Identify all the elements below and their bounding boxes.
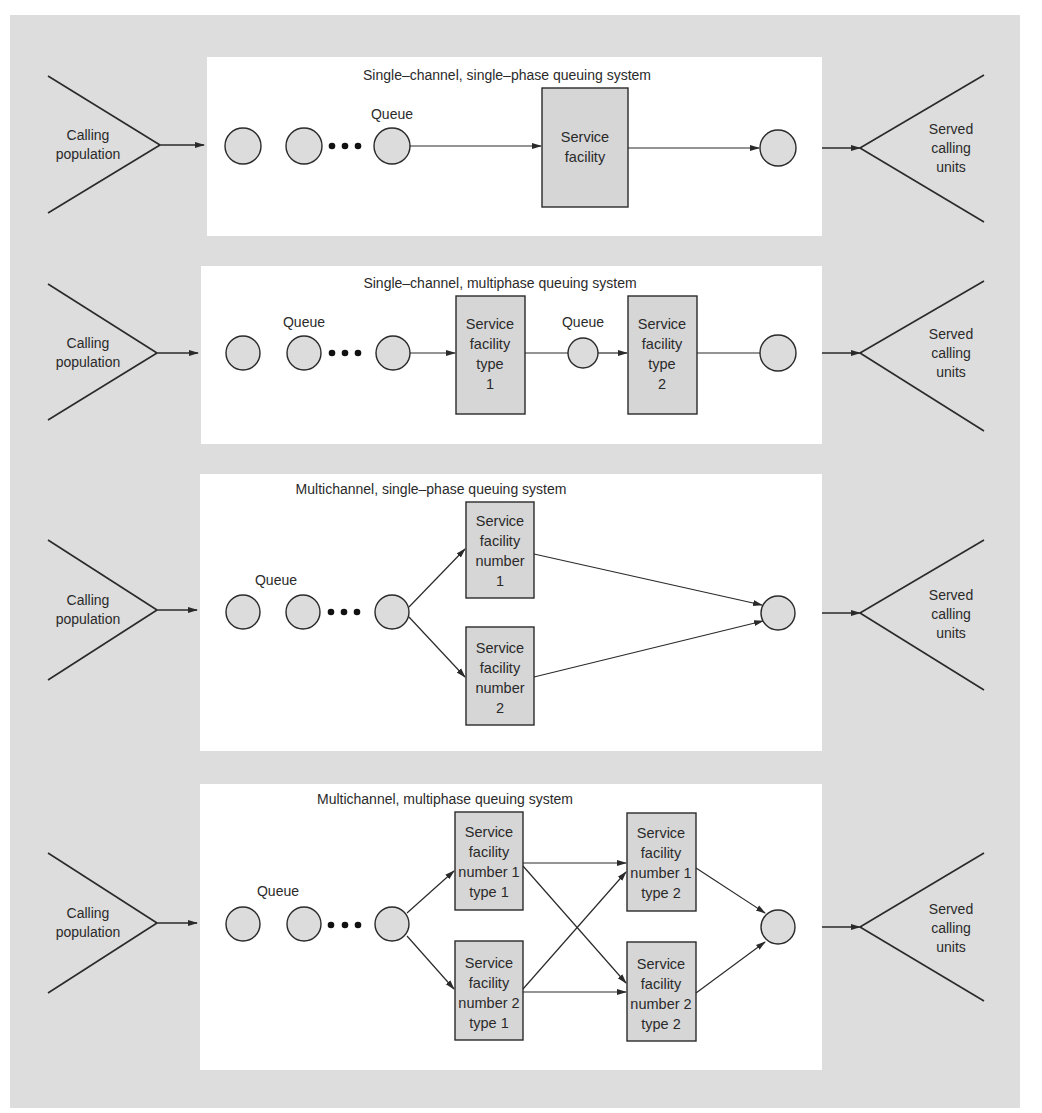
svg-text:Served: Served	[929, 901, 973, 917]
service-facility-type-2: Service facility type 2	[628, 296, 697, 414]
svg-text:number 2: number 2	[458, 995, 519, 1011]
sink-label-line1: Served	[929, 121, 973, 137]
svg-text:facility: facility	[480, 660, 521, 676]
svg-text:1: 1	[496, 573, 504, 589]
svg-text:facility: facility	[469, 975, 510, 991]
svg-text:Calling: Calling	[67, 592, 110, 608]
service-facility-number-2: Service facility number 2	[466, 627, 534, 725]
svg-text:population: population	[56, 924, 121, 940]
system-title: Single–channel, multiphase queuing syste…	[363, 275, 636, 291]
service-facility-number-1: Service facility number 1	[466, 502, 534, 598]
svg-text:Calling: Calling	[67, 905, 110, 921]
source-label-line1: Calling	[67, 127, 110, 143]
svg-text:calling: calling	[931, 345, 971, 361]
queue-unit	[225, 128, 261, 164]
svg-text:number 1: number 1	[458, 864, 519, 880]
svg-text:facility: facility	[641, 976, 682, 992]
svg-text:number 1: number 1	[630, 865, 691, 881]
svg-text:type 1: type 1	[469, 884, 509, 900]
svg-text:population: population	[56, 354, 121, 370]
svg-text:Service: Service	[638, 316, 686, 332]
svg-text:type 1: type 1	[469, 1015, 509, 1031]
queue-unit	[226, 907, 260, 941]
queue-label: Queue	[283, 314, 325, 330]
queue-unit	[286, 595, 320, 629]
ellipsis-icon	[328, 922, 362, 929]
system-title: Single–channel, single–phase queuing sys…	[363, 67, 651, 83]
svg-text:facility: facility	[641, 845, 682, 861]
svg-text:Service: Service	[637, 956, 685, 972]
svg-text:facility: facility	[469, 844, 510, 860]
served-unit	[760, 335, 796, 371]
svg-text:units: units	[936, 625, 966, 641]
sink-label-line3: units	[936, 159, 966, 175]
svg-text:Served: Served	[929, 587, 973, 603]
ellipsis-icon	[328, 609, 361, 616]
queue-unit	[287, 907, 321, 941]
svg-text:population: population	[56, 611, 121, 627]
service-facility-number-2-type-2: Service facility number 2 type 2	[627, 942, 696, 1041]
intermediate-queue-label: Queue	[562, 314, 604, 330]
system-title: Multichannel, single–phase queuing syste…	[296, 481, 567, 497]
queue-unit	[287, 336, 321, 370]
served-unit	[761, 596, 795, 630]
svg-text:Service: Service	[476, 513, 524, 529]
svg-text:number: number	[475, 680, 524, 696]
queue-unit	[226, 336, 260, 370]
svg-text:Service: Service	[476, 640, 524, 656]
intermediate-queue-unit	[568, 338, 598, 368]
served-unit	[760, 130, 796, 166]
svg-text:Service: Service	[465, 955, 513, 971]
queue-unit	[286, 128, 322, 164]
svg-text:type: type	[476, 356, 503, 372]
service-facility-number-1-type-1: Service facility number 1 type 1	[455, 812, 523, 910]
service-facility: Service facility	[542, 88, 628, 207]
svg-text:1: 1	[486, 376, 494, 392]
system-title: Multichannel, multiphase queuing system	[317, 791, 573, 807]
svg-text:units: units	[936, 364, 966, 380]
svg-text:facility: facility	[642, 336, 683, 352]
source-label-line2: population	[56, 146, 121, 162]
svg-text:number 2: number 2	[630, 996, 691, 1012]
svg-text:type 2: type 2	[641, 1016, 681, 1032]
queuing-systems-diagram: Single–channel, single–phase queuing sys…	[0, 0, 1042, 1113]
queue-unit	[375, 595, 409, 629]
svg-text:calling: calling	[931, 920, 971, 936]
queue-label: Queue	[255, 572, 297, 588]
ellipsis-icon	[329, 143, 362, 150]
svg-text:Service: Service	[637, 825, 685, 841]
svg-text:calling: calling	[931, 606, 971, 622]
svg-text:facility: facility	[470, 336, 511, 352]
svg-text:facility: facility	[480, 533, 521, 549]
svg-text:units: units	[936, 939, 966, 955]
svg-text:type: type	[648, 356, 675, 372]
service-facility-number-2-type-1: Service facility number 2 type 1	[455, 941, 523, 1040]
queue-unit	[226, 595, 260, 629]
svg-text:Served: Served	[929, 326, 973, 342]
svg-text:number: number	[475, 553, 524, 569]
queue-unit	[374, 128, 410, 164]
served-unit	[761, 910, 795, 944]
svg-text:Calling: Calling	[67, 335, 110, 351]
queue-label: Queue	[257, 883, 299, 899]
svg-text:2: 2	[658, 376, 666, 392]
queue-label: Queue	[371, 106, 413, 122]
queue-unit	[376, 336, 410, 370]
svg-text:Service: Service	[561, 129, 609, 145]
svg-text:2: 2	[496, 700, 504, 716]
service-facility-type-1: Service facility type 1	[456, 296, 525, 414]
svg-text:type 2: type 2	[641, 885, 681, 901]
svg-text:facility: facility	[565, 149, 606, 165]
svg-text:Service: Service	[465, 824, 513, 840]
sink-label-line2: calling	[931, 140, 971, 156]
svg-text:Service: Service	[466, 316, 514, 332]
queue-unit	[375, 907, 409, 941]
service-facility-number-1-type-2: Service facility number 1 type 2	[627, 813, 696, 911]
ellipsis-icon	[329, 350, 362, 357]
